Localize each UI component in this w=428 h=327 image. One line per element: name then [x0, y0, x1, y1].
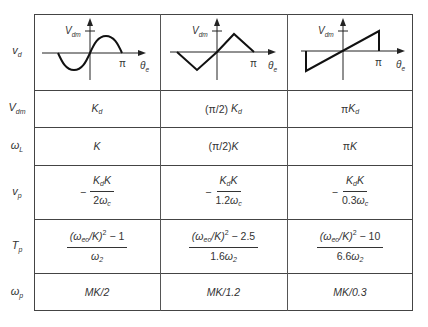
row-label-vdm: Vdm	[0, 101, 34, 115]
cell-omega-l-sinusoidal: K	[34, 127, 160, 165]
y-axis-label: Vdm	[65, 25, 81, 38]
cell-vp-sinusoidal: − KdK2ωc	[34, 165, 160, 219]
cell-vdm-triangular: (π/2) Kd	[160, 90, 287, 127]
cell-vdm-sinusoidal: Kd	[34, 90, 160, 127]
cell-vp-sawtooth: − KdK0.3ωc	[287, 165, 413, 219]
x-tick-pi: π	[119, 58, 126, 69]
cell-omega-p-sawtooth: MK/0.3	[287, 273, 413, 311]
cell-tp-sawtooth: (ωeo/K)2 − 106.6ω2	[287, 219, 413, 273]
x-axis-label: θe	[140, 60, 149, 73]
row-label-vd: vd	[0, 44, 34, 58]
row-label-omega-l: ωL	[0, 139, 34, 153]
cell-vdm-sawtooth: πKd	[287, 90, 413, 127]
x-axis-label: θe	[268, 60, 277, 73]
row-label-omega-p: ωp	[0, 285, 34, 299]
cell-omega-l-triangular: (π/2)K	[160, 127, 287, 165]
x-axis-label: θe	[396, 59, 405, 72]
cell-omega-p-triangular: MK/1.2	[160, 273, 287, 311]
x-tick-pi: π	[250, 58, 257, 69]
x-tick-pi: π	[375, 57, 382, 68]
graph-triangular: Vdm π θe	[160, 14, 287, 90]
cell-omega-p-sinusoidal: MK/2	[34, 273, 160, 311]
y-axis-label: Vdm	[192, 25, 208, 38]
cell-tp-sinusoidal: (ωeo/K)2 − 1ω2	[34, 219, 160, 273]
cell-vp-triangular: − KdK1.2ωc	[160, 165, 287, 219]
cell-omega-l-sawtooth: πK	[287, 127, 413, 165]
y-axis-label: Vdm	[318, 25, 334, 38]
graph-sawtooth: Vdm π θe	[287, 14, 413, 90]
row-label-tp: Tp	[0, 239, 34, 253]
row-label-vp: vp	[0, 185, 34, 199]
graph-sinusoidal: Vdm π θe	[34, 14, 160, 90]
cell-tp-triangular: (ωeo/K)2 − 2.51.6ω2	[160, 219, 287, 273]
